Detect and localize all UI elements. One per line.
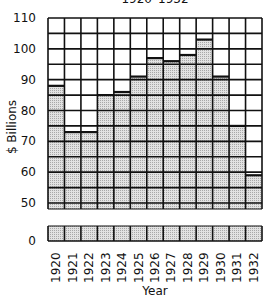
bar-base-1932: [246, 226, 262, 241]
bar-1928: [180, 55, 196, 209]
bar-1920: [48, 86, 64, 209]
bar-base-1923: [97, 226, 113, 241]
bar-1926: [147, 58, 163, 209]
bar-base-1921: [64, 226, 80, 241]
bar-base-1930: [213, 226, 229, 241]
bar-1932: [246, 175, 262, 209]
bar-base-1920: [48, 226, 64, 241]
bar-base-1924: [114, 226, 130, 241]
bar-base-1927: [163, 226, 179, 241]
bars: [48, 40, 262, 241]
bar-base-1931: [229, 226, 245, 241]
bar-1922: [81, 132, 97, 209]
bar-base-1922: [81, 226, 97, 241]
bar-1931: [229, 126, 245, 209]
bar-1923: [97, 95, 113, 209]
bar-1924: [114, 92, 130, 209]
bar-base-1926: [147, 226, 163, 241]
bar-1921: [64, 132, 80, 209]
bar-chart: [0, 0, 264, 300]
bar-1925: [130, 77, 146, 209]
bar-1930: [213, 77, 229, 209]
bar-base-1929: [196, 226, 212, 241]
bar-base-1925: [130, 226, 146, 241]
x-axis-label: Year: [48, 284, 262, 298]
bar-base-1928: [180, 226, 196, 241]
